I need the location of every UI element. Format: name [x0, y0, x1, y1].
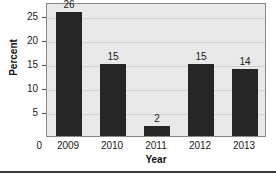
bar-value-label: 14	[239, 56, 250, 67]
y-axis-tick-label: 10	[27, 84, 38, 94]
y-axis-tick-label: 5	[32, 108, 38, 118]
bar-chart-figure: Percent 510152025 261521514 0 2009201020…	[0, 0, 276, 177]
x-axis-tick-label: 2013	[222, 140, 266, 152]
bar-series: 261521514	[47, 4, 265, 136]
plot-area: 261521514	[46, 3, 266, 137]
bottom-divider	[0, 171, 276, 173]
bar[interactable]	[100, 64, 126, 136]
bar[interactable]	[188, 64, 214, 136]
x-axis-tick-label: 2010	[90, 140, 134, 152]
x-axis-zero-label: 0	[30, 140, 42, 152]
bar-slot: 26	[47, 4, 91, 136]
x-axis-tick-label: 2011	[134, 140, 178, 152]
bar-slot: 15	[179, 4, 223, 136]
y-axis-tick-label: 20	[27, 36, 38, 46]
bar-slot: 2	[135, 4, 179, 136]
x-axis: 20092010201120122013	[46, 140, 266, 154]
y-axis: 510152025	[0, 3, 46, 137]
bar-value-label: 15	[195, 51, 206, 62]
x-axis-tick-label: 2012	[178, 140, 222, 152]
bar-value-label: 2	[154, 113, 160, 124]
bar-value-label: 15	[107, 51, 118, 62]
bar-slot: 14	[223, 4, 267, 136]
bar-value-label: 26	[63, 0, 74, 10]
bar[interactable]	[56, 12, 82, 136]
x-axis-title: Year	[46, 154, 266, 165]
y-axis-tick-label: 15	[27, 60, 38, 70]
bar[interactable]	[144, 126, 170, 136]
bar[interactable]	[232, 69, 258, 136]
y-axis-tick-label: 25	[27, 12, 38, 22]
x-axis-tick-label: 2009	[46, 140, 90, 152]
bar-slot: 15	[91, 4, 135, 136]
